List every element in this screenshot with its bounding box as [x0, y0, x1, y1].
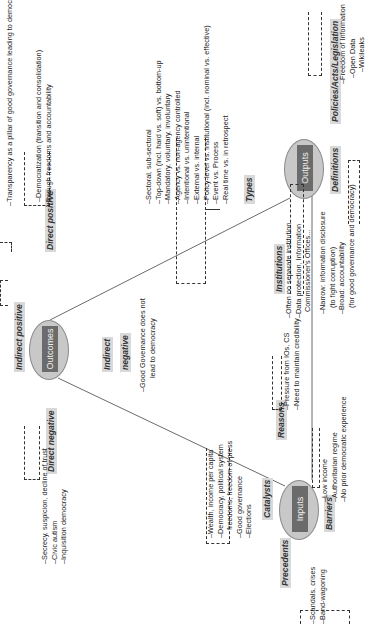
direct-positive-list: –Democratization (transition and consoli…	[34, 50, 53, 202]
inputs-node-label: Inputs	[292, 486, 308, 532]
list-item: –Event vs. Process	[211, 25, 221, 204]
list-item: –Authoritarian regime	[330, 397, 340, 502]
indirect-positive-label: Indirect positive	[14, 302, 25, 372]
list-item: –Wikileaks	[357, 4, 367, 84]
list-item: –Policy-level vs. institutional (incl. n…	[202, 25, 212, 204]
list-item: –Mandatory, voluntary, involuntary	[163, 25, 173, 204]
indirect-negative-label: Indirect negative	[96, 333, 132, 372]
list-item: –Narrow: information disclosure	[318, 184, 328, 314]
list-item: –Civic autism	[50, 448, 60, 564]
catalysts-label: Catalysts	[262, 478, 273, 520]
concept-map: Outcomes Indirect positive –Transparency…	[0, 0, 370, 624]
list-item: –Democracy, political system	[216, 441, 226, 538]
barriers-brace	[312, 428, 320, 488]
list-item: –Need to maintain credibility	[292, 318, 302, 410]
list-item: through freedoms and accountability	[44, 50, 54, 202]
types-list: –Sectoral, sub-sectoral –Top-down (incl.…	[144, 25, 230, 204]
inputs-node[interactable]: Inputs	[279, 480, 319, 540]
list-item: –External vs. internal	[192, 25, 202, 204]
list-item: –Agency vs. non-agency controlled	[173, 25, 183, 204]
list-item: –Secrecy, suspicion, decline of trust	[40, 448, 50, 564]
transparency-item: –Transparency as a pillar of good govern…	[5, 0, 15, 206]
list-item: –Scandals, crises	[308, 567, 318, 624]
list-item: –Real time vs. in retrospect	[221, 25, 231, 204]
list-item: (to fight corruption)	[328, 184, 338, 314]
list-item: –Top-down (incl. hard vs. soft) vs. bott…	[154, 25, 164, 204]
list-item: –Data protection, Information	[294, 223, 304, 318]
reasons-list: –Pressure from IOs, CS –Need to maintain…	[282, 318, 301, 410]
barriers-list: –Low income –Authoritarian regime –No pr…	[320, 397, 349, 502]
policies-brace	[308, 12, 322, 76]
list-item: –Elections	[244, 441, 254, 538]
catalysts-list: –Wealth, income per capita –Democracy, p…	[206, 441, 254, 538]
precedents-label: Precedents	[280, 538, 291, 588]
list-item: –Band-wagoning	[318, 567, 328, 624]
direct-negative-list: –Secrecy, suspicion, decline of trust –C…	[40, 448, 69, 564]
indirect-positive-brace	[0, 280, 8, 306]
reasons-brace	[272, 356, 282, 410]
indirect-negative-list: –Good Governance does not lead to democr…	[138, 298, 157, 392]
list-item: –Inquisition democracy	[59, 448, 69, 564]
list-item: –Freedom of Information	[338, 4, 348, 84]
list-item: (for good governance and democracy)	[347, 184, 357, 314]
list-item: –Democratization (transition and consoli…	[34, 50, 44, 202]
list-item: –Broad: accountability	[337, 184, 347, 314]
definitions-list: –Narrow: information disclosure (to figh…	[318, 184, 356, 314]
list-item: lead to democracy	[148, 298, 158, 392]
list-item: –Good governance	[235, 441, 245, 538]
types-label: Types	[244, 175, 255, 204]
list-item: –Sectoral, sub-sectoral	[144, 25, 154, 204]
list-item: –Intentional vs. unintentional	[182, 25, 192, 204]
list-item: freedoms, freedom of press	[225, 441, 235, 538]
policies-list: –Freedom of Information –Open Data –Wiki…	[338, 4, 367, 84]
direct-negative-brace	[24, 426, 40, 480]
list-item: –Pressure from IOs, CS	[282, 318, 292, 410]
precedents-list: –Scandals, crises –Band-wagoning	[308, 567, 327, 624]
outcomes-node-label: Outcomes	[42, 326, 58, 372]
list-item: –Wealth, income per capita	[206, 441, 216, 538]
outcomes-node[interactable]: Outcomes	[29, 320, 69, 380]
list-item: –Low income	[320, 397, 330, 502]
list-item: –Often no separate institution	[284, 223, 294, 318]
list-item: –Good Governance does not	[138, 298, 148, 392]
institutions-list: –Often no separate institution –Data pro…	[284, 223, 313, 318]
list-item: Commissioner's Offices...	[303, 223, 313, 318]
list-item: –Open Data	[348, 4, 358, 84]
list-item: –No prior democratic experience	[339, 397, 349, 502]
